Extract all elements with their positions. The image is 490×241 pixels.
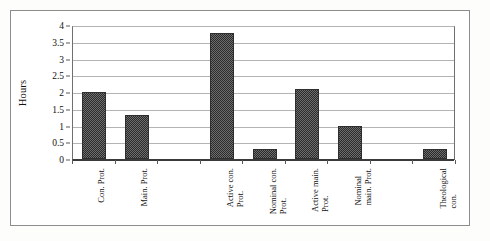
gridline-2.5	[73, 76, 454, 77]
y-tick-label: 2	[59, 89, 64, 98]
x-tick-mark	[200, 160, 201, 164]
y-tick-mark	[66, 109, 70, 110]
y-axis-title: Hours	[17, 80, 28, 107]
x-tick-mark	[242, 160, 243, 164]
y-tick-label: 4	[59, 22, 64, 31]
x-tick-mark	[455, 160, 456, 164]
x-axis-label: Active con. Prot.	[226, 168, 245, 207]
x-tick-mark	[327, 160, 328, 164]
y-tick-label: 0	[59, 156, 64, 165]
y-tick-mark	[66, 160, 70, 161]
y-tick-mark	[66, 42, 70, 43]
x-tick-mark	[115, 160, 116, 164]
y-tick-mark	[66, 59, 70, 60]
y-tick-mark	[66, 76, 70, 77]
y-tick-label: 0.5	[52, 139, 64, 148]
bar-nominal-con-prot	[253, 149, 277, 159]
x-axis-label: Active main. Prot.	[311, 168, 330, 212]
y-tick-mark	[66, 26, 70, 27]
y-tick-label: 2.5	[52, 72, 64, 81]
gridline-2	[73, 93, 454, 94]
x-axis-label: Nominal main. Prot.	[354, 168, 373, 206]
y-tick-label: 3.5	[52, 38, 64, 47]
plot-area	[72, 26, 455, 160]
gridline-3.5	[73, 43, 454, 44]
x-tick-mark	[412, 160, 413, 164]
bar-theological-con	[423, 149, 447, 159]
x-tick-mark	[285, 160, 286, 164]
x-axis-label: Nominal con. Prot.	[269, 168, 288, 214]
bar-nominal-main-prot	[338, 126, 362, 160]
x-axis-label: Theological con.	[439, 168, 458, 209]
x-tick-mark	[370, 160, 371, 164]
x-tick-mark	[157, 160, 158, 164]
x-axis: Con. Prot.Main. Prot.Active con. Prot.No…	[72, 160, 455, 226]
x-axis-label: Con. Prot.	[97, 168, 107, 203]
gridline-1.5	[73, 110, 454, 111]
x-axis-label: Main. Prot.	[140, 168, 150, 207]
bar-active-con-prot	[210, 33, 234, 159]
bar-active-main-prot	[295, 89, 319, 159]
y-tick-mark	[66, 143, 70, 144]
y-tick-mark	[66, 93, 70, 94]
bar-main-prot	[125, 115, 149, 159]
y-tick-label: 3	[59, 55, 64, 64]
y-axis-tick-labels: 00.511.522.533.54	[40, 26, 70, 160]
y-tick-label: 1.5	[52, 105, 64, 114]
chart-figure: Hours 00.511.522.533.54 Con. Prot.Main. …	[0, 0, 490, 241]
y-tick-mark	[66, 126, 70, 127]
y-tick-label: 1	[59, 122, 64, 131]
x-tick-mark	[72, 160, 73, 164]
bar-con-prot	[82, 92, 106, 159]
gridline-3	[73, 60, 454, 61]
gridline-4	[73, 26, 454, 27]
